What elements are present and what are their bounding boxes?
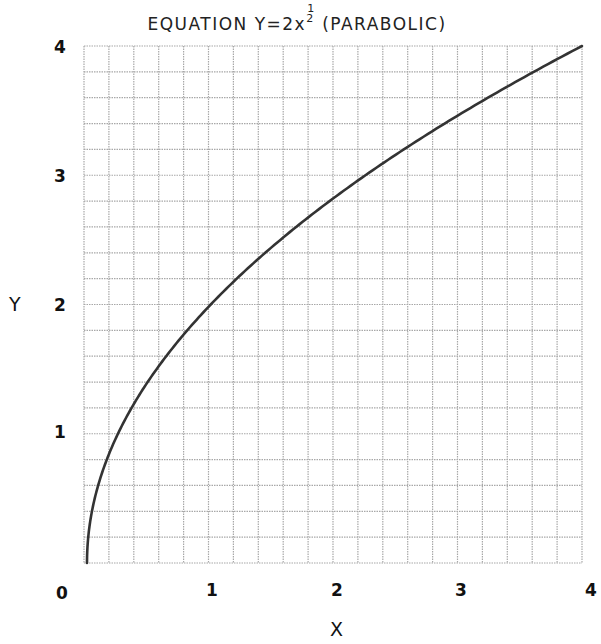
y-tick-3: 3 xyxy=(50,166,70,186)
x-tick-3: 3 xyxy=(451,580,471,600)
x-tick-0: 0 xyxy=(52,583,72,603)
y-tick-1: 1 xyxy=(50,422,70,442)
x-tick-1: 1 xyxy=(202,580,222,600)
x-tick-2: 2 xyxy=(327,580,347,600)
x-tick-4: 4 xyxy=(581,580,601,600)
y-axis-label: Y xyxy=(9,293,21,315)
grid-lines xyxy=(84,46,582,563)
y-tick-4: 4 xyxy=(50,37,70,57)
y-tick-2: 2 xyxy=(50,295,70,315)
x-axis-label: X xyxy=(330,618,343,640)
